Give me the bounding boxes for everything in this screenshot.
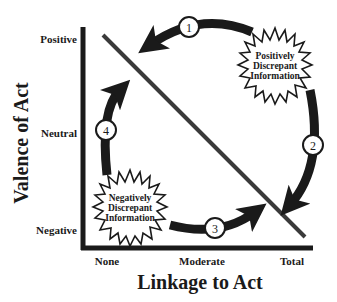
svg-text:3: 3 (212, 222, 218, 236)
step-marker-1: 1 (179, 17, 199, 37)
arrow-1 (150, 24, 252, 45)
svg-text:Discrepant: Discrepant (108, 203, 153, 213)
step-marker-4: 4 (96, 120, 116, 140)
x-tick-none: None (95, 255, 120, 267)
x-tick-moderate: Moderate (179, 255, 225, 267)
x-tick-total: Total (280, 255, 304, 267)
svg-text:4: 4 (103, 124, 109, 138)
svg-text:1: 1 (186, 21, 192, 35)
x-axis-title: Linkage to Act (137, 271, 263, 294)
y-tick-negative: Negative (36, 224, 77, 236)
svg-text:Information: Information (105, 213, 155, 223)
svg-text:Negatively: Negatively (109, 193, 152, 203)
burst-positive: Positively Discrepant Information (238, 28, 312, 104)
svg-text:Discrepant: Discrepant (253, 61, 298, 71)
burst-negative: Negatively Discrepant Information (93, 170, 167, 246)
y-axis-ticks: Positive Neutral Negative (36, 33, 77, 236)
y-tick-neutral: Neutral (41, 127, 77, 139)
y-axis-title: Valence of Act (10, 82, 32, 204)
svg-text:Information: Information (250, 71, 300, 81)
y-tick-positive: Positive (40, 33, 77, 45)
svg-text:2: 2 (310, 139, 316, 153)
discrepant-information-diagram: 1 2 3 4 Positively Discrepant Informatio… (0, 0, 337, 302)
x-axis-ticks: None Moderate Total (95, 255, 304, 267)
svg-text:Positively: Positively (255, 51, 294, 61)
step-marker-2: 2 (303, 135, 323, 155)
step-marker-3: 3 (205, 218, 225, 238)
